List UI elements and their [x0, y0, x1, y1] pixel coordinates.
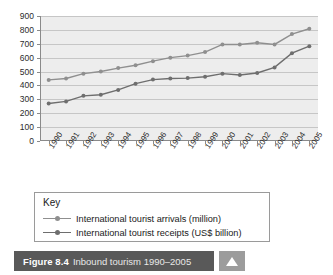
data-point — [307, 44, 311, 48]
key-entry-arrivals: International tourist arrivals (million) — [43, 212, 221, 225]
y-axis-tick-label: 900 — [0, 12, 34, 21]
y-axis-tick-label: 600 — [0, 54, 34, 63]
data-point — [307, 27, 311, 31]
figure-nav-button[interactable] — [219, 251, 245, 271]
data-point — [99, 70, 103, 74]
triangle-up-icon — [226, 257, 238, 266]
data-point — [290, 32, 294, 36]
data-point — [186, 54, 190, 58]
y-axis-tick-label: 300 — [0, 95, 34, 104]
data-point — [203, 75, 207, 79]
key-swatch-arrivals-icon — [43, 213, 71, 224]
data-point — [220, 72, 224, 76]
data-point — [151, 78, 155, 82]
y-axis-tick-label: 400 — [0, 81, 34, 90]
data-point — [47, 102, 51, 106]
series-layer — [40, 16, 318, 141]
figure-caption-text: Inbound tourism 1990–2005 — [73, 256, 191, 267]
data-point — [186, 76, 190, 80]
data-point — [81, 72, 85, 76]
key-title: Key — [43, 197, 60, 208]
key-label-arrivals: International tourist arrivals (million) — [76, 214, 221, 224]
data-point — [47, 78, 51, 82]
data-point — [81, 94, 85, 98]
data-point — [273, 65, 277, 69]
figure-caption-bar: Figure 8.4 Inbound tourism 1990–2005 — [14, 251, 214, 271]
data-point — [168, 56, 172, 60]
series-line — [49, 46, 310, 103]
data-point — [64, 99, 68, 103]
data-point — [116, 66, 120, 70]
y-axis-tick-label: 500 — [0, 68, 34, 77]
data-point — [134, 63, 138, 67]
key-entry-receipts: International tourist receipts (US$ bill… — [43, 226, 241, 239]
data-point — [255, 71, 259, 75]
figure-container: 0100200300400500600700800900199019911992… — [0, 0, 333, 275]
y-axis-tick-label: 0 — [0, 137, 34, 146]
data-point — [116, 88, 120, 92]
figure-number: Figure 8.4 — [23, 256, 69, 267]
chart-key: Key International tourist arrivals (mill… — [34, 192, 270, 242]
data-point — [168, 77, 172, 81]
series-line — [49, 29, 310, 80]
y-axis-tick-label: 700 — [0, 40, 34, 49]
key-label-receipts: International tourist receipts (US$ bill… — [76, 228, 241, 238]
data-point — [220, 42, 224, 46]
y-axis-tick-label: 800 — [0, 26, 34, 35]
data-point — [151, 59, 155, 63]
data-point — [203, 50, 207, 54]
data-point — [290, 51, 294, 55]
line-chart: 0100200300400500600700800900199019911992… — [0, 0, 333, 185]
y-axis-tick-label: 100 — [0, 123, 34, 132]
data-point — [273, 42, 277, 46]
data-point — [134, 82, 138, 86]
data-point — [64, 77, 68, 81]
y-axis-tick-mark — [37, 141, 40, 142]
data-point — [99, 93, 103, 97]
data-point — [238, 42, 242, 46]
data-point — [255, 41, 259, 45]
y-axis-tick-label: 200 — [0, 109, 34, 118]
key-swatch-receipts-icon — [43, 227, 71, 238]
data-point — [238, 73, 242, 77]
